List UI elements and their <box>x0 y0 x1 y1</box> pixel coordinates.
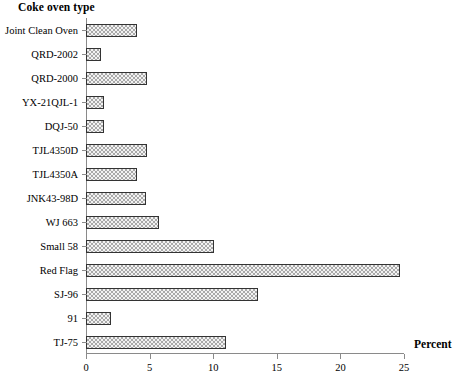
bar-row <box>86 186 146 210</box>
y-axis-tick <box>82 318 87 319</box>
x-axis-tick-label: 10 <box>208 362 219 373</box>
bar <box>86 72 147 85</box>
bar-row <box>86 18 137 42</box>
bar-row <box>86 114 104 138</box>
x-axis-tick <box>340 354 341 359</box>
y-axis-tick <box>82 198 87 199</box>
bar <box>86 312 111 325</box>
y-axis-tick <box>82 246 87 247</box>
category-label: TJL4350D <box>33 145 79 156</box>
y-axis-tick <box>82 174 87 175</box>
y-axis-tick <box>82 54 87 55</box>
x-axis-tick-label: 15 <box>272 362 283 373</box>
bar <box>86 96 104 109</box>
bar-row <box>86 258 400 282</box>
bar <box>86 264 400 277</box>
bar <box>86 120 104 133</box>
bar <box>86 168 137 181</box>
x-axis-tick <box>213 354 214 359</box>
bar-row <box>86 90 104 114</box>
bar-row <box>86 162 137 186</box>
category-label: Red Flag <box>40 265 78 276</box>
x-axis-tick-label: 5 <box>147 362 152 373</box>
y-axis-tick <box>82 78 87 79</box>
x-axis-tick <box>150 354 151 359</box>
category-label: DQJ-50 <box>45 121 78 132</box>
bar-row <box>86 42 101 66</box>
bar <box>86 240 214 253</box>
x-axis-tick-label: 25 <box>399 362 410 373</box>
bar <box>86 336 226 349</box>
y-axis-tick <box>82 150 87 151</box>
bar <box>86 48 101 61</box>
plot-area: 0510152025 <box>86 18 404 354</box>
category-label: WJ 663 <box>46 217 78 228</box>
bar <box>86 144 147 157</box>
y-axis-tick <box>82 30 87 31</box>
y-axis-tick <box>82 102 87 103</box>
bar-row <box>86 66 147 90</box>
bar <box>86 216 159 229</box>
y-axis-title: Coke oven type <box>18 1 95 13</box>
bar-row <box>86 234 214 258</box>
x-axis-tick-label: 20 <box>335 362 346 373</box>
category-label: 91 <box>68 313 79 324</box>
bar-row <box>86 306 111 330</box>
category-label: Joint Clean Oven <box>5 25 78 36</box>
category-label: JNK43-98D <box>27 193 78 204</box>
category-label: QRD-2000 <box>31 73 78 84</box>
x-axis-title: Percent <box>414 338 451 350</box>
bar-row <box>86 210 159 234</box>
bar <box>86 288 258 301</box>
bar-row <box>86 330 226 354</box>
x-axis-tick <box>404 354 405 359</box>
category-label: TJ-75 <box>54 337 79 348</box>
category-label: TJL4350A <box>33 169 79 180</box>
bar-row <box>86 138 147 162</box>
y-axis-tick <box>82 222 87 223</box>
bar-chart: Coke oven type Joint Clean OvenQRD-2002Q… <box>0 0 464 380</box>
x-axis-tick <box>277 354 278 359</box>
category-label: YX-21QJL-1 <box>22 97 78 108</box>
category-label: Small 58 <box>40 241 78 252</box>
bar <box>86 192 146 205</box>
bar <box>86 24 137 37</box>
category-axis-labels: Joint Clean OvenQRD-2002QRD-2000YX-21QJL… <box>0 18 82 354</box>
category-label: QRD-2002 <box>31 49 78 60</box>
y-axis-tick <box>82 270 87 271</box>
x-axis-tick <box>86 354 87 359</box>
y-axis-tick <box>82 342 87 343</box>
x-axis-tick-label: 0 <box>83 362 88 373</box>
y-axis-tick <box>82 126 87 127</box>
y-axis-tick <box>82 294 87 295</box>
category-label: SJ-96 <box>54 289 78 300</box>
bar-row <box>86 282 258 306</box>
